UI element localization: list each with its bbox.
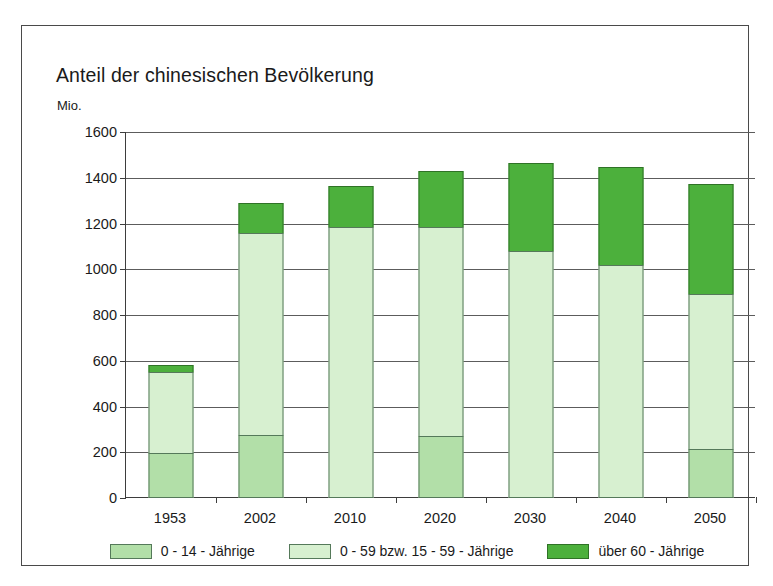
bar-group-2030[interactable] bbox=[486, 132, 576, 497]
bar-segment-2040-s1[interactable] bbox=[599, 265, 644, 498]
y-tick-label-200: 200 bbox=[57, 444, 117, 460]
x-tick-label-2010: 2010 bbox=[305, 510, 395, 526]
bar-stack-2030[interactable] bbox=[509, 163, 554, 497]
bar-series-container bbox=[126, 132, 755, 497]
legend-swatch-0 bbox=[110, 544, 152, 559]
bar-group-2040[interactable] bbox=[576, 132, 666, 497]
bar-group-2020[interactable] bbox=[396, 132, 486, 497]
x-tick-2 bbox=[306, 497, 307, 503]
legend-label-2: über 60 - Jährige bbox=[598, 543, 704, 559]
chart-figure: Anteil der chinesischen Bevölkerung Mio.… bbox=[0, 0, 773, 586]
bar-segment-2020-s0[interactable] bbox=[419, 436, 464, 498]
legend-item-0[interactable]: 0 - 14 - Jährige bbox=[110, 543, 255, 559]
bar-segment-2030-s2[interactable] bbox=[509, 163, 554, 252]
bar-segment-2020-s2[interactable] bbox=[419, 171, 464, 228]
y-tick-label-1000: 1000 bbox=[57, 261, 117, 277]
bar-segment-2050-s1[interactable] bbox=[689, 294, 734, 450]
legend-item-2[interactable]: über 60 - Jährige bbox=[547, 543, 704, 559]
bar-segment-1953-s1[interactable] bbox=[149, 372, 194, 454]
bar-stack-1953[interactable] bbox=[149, 365, 194, 497]
bar-stack-2020[interactable] bbox=[419, 171, 464, 497]
y-axis-unit-label: Mio. bbox=[57, 98, 82, 113]
x-tick-label-2030: 2030 bbox=[485, 510, 575, 526]
x-tick-label-2002: 2002 bbox=[215, 510, 305, 526]
bar-segment-2010-s2[interactable] bbox=[329, 186, 374, 228]
legend-swatch-1 bbox=[289, 544, 331, 559]
bar-segment-2050-s2[interactable] bbox=[689, 184, 734, 295]
bar-segment-2040-s2[interactable] bbox=[599, 167, 644, 265]
plot-area bbox=[125, 132, 755, 498]
bar-group-2050[interactable] bbox=[666, 132, 756, 497]
x-tick-label-1953: 1953 bbox=[125, 510, 215, 526]
y-tick-label-800: 800 bbox=[57, 307, 117, 323]
bar-segment-2020-s1[interactable] bbox=[419, 227, 464, 437]
x-tick-4 bbox=[486, 497, 487, 503]
x-tick-label-2050: 2050 bbox=[665, 510, 755, 526]
bar-segment-2010-s1[interactable] bbox=[329, 227, 374, 498]
bar-segment-2002-s2[interactable] bbox=[239, 203, 284, 234]
x-tick-1 bbox=[216, 497, 217, 503]
bar-stack-2010[interactable] bbox=[329, 186, 374, 497]
legend-label-0: 0 - 14 - Jährige bbox=[161, 543, 255, 559]
x-tick-label-2040: 2040 bbox=[575, 510, 665, 526]
x-tick-3 bbox=[396, 497, 397, 503]
bar-stack-2050[interactable] bbox=[689, 184, 734, 497]
bar-stack-2040[interactable] bbox=[599, 167, 644, 497]
bar-segment-2002-s1[interactable] bbox=[239, 233, 284, 437]
x-tick-6 bbox=[666, 497, 667, 503]
chart-frame: Anteil der chinesischen Bevölkerung Mio.… bbox=[21, 25, 749, 566]
legend-swatch-2 bbox=[547, 544, 589, 559]
chart-title: Anteil der chinesischen Bevölkerung bbox=[56, 64, 374, 87]
x-tick-label-2020: 2020 bbox=[395, 510, 485, 526]
x-tick-7 bbox=[756, 497, 757, 503]
y-tick-label-1600: 1600 bbox=[57, 124, 117, 140]
bar-segment-2050-s0[interactable] bbox=[689, 449, 734, 498]
bar-group-2002[interactable] bbox=[216, 132, 306, 497]
bar-group-1953[interactable] bbox=[126, 132, 216, 497]
y-tick-label-400: 400 bbox=[57, 399, 117, 415]
bar-group-2010[interactable] bbox=[306, 132, 396, 497]
legend-item-1[interactable]: 0 - 59 bzw. 15 - 59 - Jährige bbox=[289, 543, 514, 559]
y-tick-label-1200: 1200 bbox=[57, 216, 117, 232]
y-tick-0 bbox=[120, 498, 126, 499]
y-tick-label-1400: 1400 bbox=[57, 170, 117, 186]
x-tick-5 bbox=[576, 497, 577, 503]
bar-stack-2002[interactable] bbox=[239, 203, 284, 497]
bar-segment-2002-s0[interactable] bbox=[239, 435, 284, 498]
bar-segment-1953-s0[interactable] bbox=[149, 453, 194, 498]
y-tick-label-600: 600 bbox=[57, 353, 117, 369]
chart-legend: 0 - 14 - Jährige0 - 59 bzw. 15 - 59 - Jä… bbox=[57, 536, 757, 566]
y-tick-label-0: 0 bbox=[57, 490, 117, 506]
legend-label-1: 0 - 59 bzw. 15 - 59 - Jährige bbox=[340, 543, 514, 559]
bar-segment-2030-s1[interactable] bbox=[509, 251, 554, 498]
